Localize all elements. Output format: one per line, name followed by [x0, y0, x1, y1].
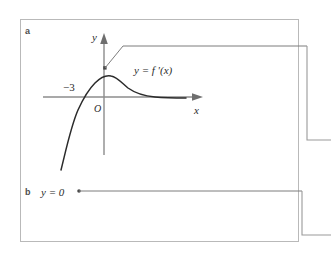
- curve-label: y = f '(x): [133, 64, 173, 77]
- connector-b: [302, 191, 331, 235]
- x-axis-label: x: [193, 104, 199, 116]
- connector-a: [307, 46, 331, 140]
- figure-root: a y x O −3 y = f '(x) b y = 0: [0, 0, 331, 254]
- origin-label: O: [94, 103, 101, 114]
- panel-b-tag: b: [25, 187, 31, 197]
- y-axis-arrowhead: [100, 33, 108, 44]
- panel-a-tag: a: [25, 26, 31, 36]
- derivative-curve: [61, 76, 186, 170]
- figure-canvas: a y x O −3 y = f '(x) b y = 0: [0, 0, 331, 254]
- panel-b-equation: y = 0: [40, 186, 65, 198]
- x-intercept-label: −3: [63, 81, 75, 93]
- y-axis-label: y: [91, 31, 97, 43]
- x-axis-arrowhead: [192, 93, 203, 101]
- figure-panel-border: [21, 20, 299, 242]
